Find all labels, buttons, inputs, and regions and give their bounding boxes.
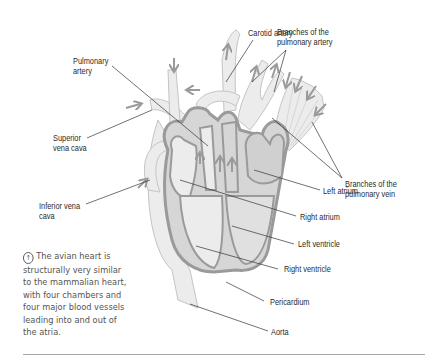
label-left-atrium: Left atrium (323, 186, 358, 196)
label-right-ventricle: Right ventricle (284, 264, 331, 274)
pulmonary-artery-vessel (168, 70, 180, 124)
label-superior-vena-cava: Superior vena cava (53, 133, 87, 153)
label-branches-pulmonary-artery: Branches of the pulmonary artery (277, 27, 332, 47)
figure-caption: ↑The avian heart is structurally very si… (23, 250, 129, 338)
label-right-atrium: Right atrium (300, 212, 340, 222)
label-inferior-vena-cava: Inferior vena cava (39, 201, 80, 221)
arrow-circle-icon: ↑ (23, 252, 34, 264)
label-pericardium: Pericardium (270, 297, 309, 307)
arrow-icon (126, 104, 140, 108)
left-atrium (246, 133, 284, 184)
label-aorta: Aorta (271, 327, 289, 337)
right-atrium (170, 136, 197, 197)
caption-text: The avian heart is structurally very sim… (23, 250, 126, 337)
label-left-ventricle: Left ventricle (298, 239, 340, 249)
divider-rule (23, 354, 425, 355)
label-pulmonary-artery: Pulmonary artery (73, 56, 108, 76)
inner-vessel-2 (222, 122, 238, 192)
